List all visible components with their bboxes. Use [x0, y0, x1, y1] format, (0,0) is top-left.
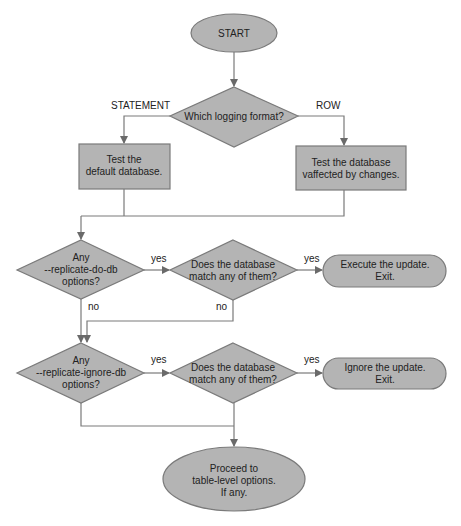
test-affected-db-text-2: vaffected by changes.: [302, 169, 399, 180]
edge-do-match-no: [87, 300, 233, 342]
edge-format-row: [298, 116, 344, 145]
test-default-db-text-1: Test the: [106, 154, 141, 165]
ignore-db-decision-text-1: Any: [72, 355, 89, 366]
flowchart-canvas: START Which logging format? Test the def…: [0, 0, 461, 526]
execute-update-text-2: Exit.: [375, 271, 394, 282]
do-db-decision-text-2: --replicate-do-db: [44, 264, 118, 275]
ignore-db-match-text-2: match any of them?: [189, 374, 277, 385]
do-db-no-label: no: [88, 301, 100, 312]
ignore-match-yes-label: yes: [304, 354, 320, 365]
edge-ignore-db-no: [81, 403, 234, 426]
execute-update-text-1: Execute the update.: [341, 259, 430, 270]
do-match-no-label: no: [216, 301, 228, 312]
do-db-yes-label: yes: [151, 253, 167, 264]
proceed-text-3: If any.: [221, 487, 248, 498]
proceed-text-1: Proceed to: [210, 463, 259, 474]
do-db-match-text-2: match any of them?: [189, 271, 277, 282]
edge-labels: STATEMENT ROW yes yes no no yes yes: [88, 100, 341, 365]
do-match-yes-label: yes: [304, 253, 320, 264]
start-text: START: [218, 28, 250, 39]
ignore-db-yes-label: yes: [151, 354, 167, 365]
statement-label: STATEMENT: [111, 100, 170, 111]
do-db-match-text-1: Does the database: [191, 259, 275, 270]
proceed-text-2: table-level options.: [192, 475, 275, 486]
ignore-db-match-node[interactable]: [170, 343, 297, 403]
do-db-match-node[interactable]: [170, 240, 297, 300]
edge-affected-merge: [81, 190, 344, 216]
ignore-update-text-2: Exit.: [375, 374, 394, 385]
format-decision-text: Which logging format?: [184, 111, 284, 122]
test-affected-db-node[interactable]: [296, 146, 406, 190]
ignore-db-decision-text-3: options?: [62, 379, 100, 390]
ignore-db-match-text-1: Does the database: [191, 362, 275, 373]
ignore-update-text-1: Ignore the update.: [344, 362, 425, 373]
do-db-decision-text-1: Any: [72, 252, 89, 263]
do-db-decision-text-3: options?: [62, 276, 100, 287]
row-label: ROW: [316, 100, 341, 111]
edge-format-statement: [124, 116, 170, 143]
test-affected-db-text-1: Test the database: [312, 157, 391, 168]
ignore-db-decision-text-2: --replicate-ignore-db: [36, 367, 126, 378]
test-default-db-text-2: default database.: [86, 166, 163, 177]
flowchart-svg: START Which logging format? Test the def…: [0, 0, 461, 526]
